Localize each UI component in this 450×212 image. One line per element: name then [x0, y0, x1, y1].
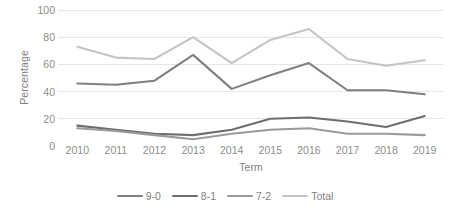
line-chart: Percentage 020406080100 2010201120122013… [0, 0, 450, 212]
series-lines [77, 29, 424, 139]
y-axis-tick-label: 80 [29, 31, 55, 43]
series-line-Total [77, 29, 424, 66]
x-axis-tick-label: 2019 [405, 143, 445, 157]
plot-area [58, 10, 444, 146]
legend-swatch-icon [227, 195, 253, 197]
y-axis-tick-labels: 020406080100 [26, 0, 55, 212]
legend-label: 8-1 [201, 189, 216, 203]
legend-swatch-icon [172, 195, 198, 197]
legend-swatch-icon [117, 195, 143, 197]
legend-item-9-0[interactable]: 9-0 [117, 189, 161, 203]
x-axis-tick-label: 2014 [212, 143, 252, 157]
legend-item-7-2[interactable]: 7-2 [227, 189, 271, 203]
chart-legend: 9-08-17-2Total [0, 186, 450, 206]
x-axis-tick-label: 2016 [289, 143, 329, 157]
series-line-9-0 [77, 55, 424, 94]
plot-svg [58, 10, 444, 146]
y-axis-tick-label: 0 [29, 140, 55, 152]
x-axis-tick-label: 2017 [328, 143, 368, 157]
x-axis-tick-label: 2018 [366, 143, 406, 157]
y-axis-tick-label: 40 [29, 86, 55, 98]
legend-item-8-1[interactable]: 8-1 [172, 189, 216, 203]
x-axis-tick-label: 2011 [96, 143, 136, 157]
x-axis-tick-label: 2015 [250, 143, 290, 157]
legend-label: 7-2 [256, 189, 271, 203]
x-axis-title: Term [58, 160, 444, 174]
series-line-7-2 [77, 128, 424, 139]
legend-label: 9-0 [146, 189, 161, 203]
gridlines [58, 10, 444, 146]
x-axis-tick-label: 2012 [135, 143, 175, 157]
y-axis-tick-label: 100 [29, 4, 55, 16]
x-axis-tick-label: 2010 [57, 143, 97, 157]
legend-swatch-icon [282, 195, 308, 197]
y-axis-tick-label: 20 [29, 113, 55, 125]
y-axis-tick-label: 60 [29, 58, 55, 70]
x-axis-tick-labels: 2010201120122013201420152016201720182019 [58, 143, 444, 158]
x-axis-tick-label: 2013 [173, 143, 213, 157]
legend-item-Total[interactable]: Total [282, 189, 333, 203]
legend-label: Total [311, 189, 333, 203]
